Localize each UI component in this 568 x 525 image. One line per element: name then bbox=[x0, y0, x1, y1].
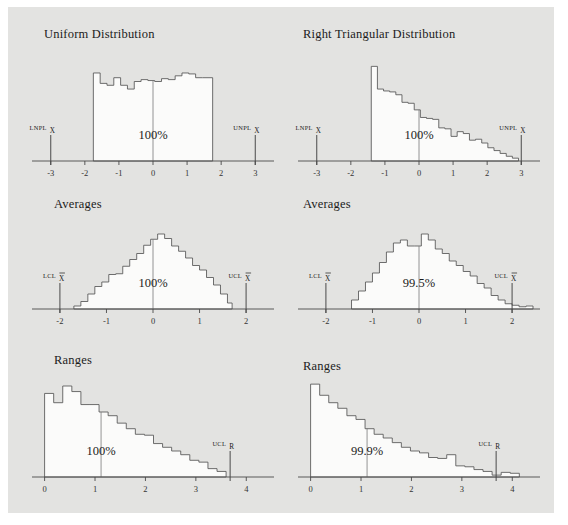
limit-label-lower-limit: LNPL bbox=[296, 124, 313, 131]
limit-label-lower-limit: LNPL bbox=[30, 124, 47, 131]
chart-title-averages-uniform: Averages bbox=[54, 197, 102, 212]
x-axis-tick-label: 0 bbox=[42, 484, 46, 494]
x-axis-tick-label: -1 bbox=[381, 168, 388, 178]
x-axis-tick-label: 2 bbox=[143, 484, 147, 494]
x-axis-tick-label: 2 bbox=[510, 316, 514, 326]
x-axis-tick-label: 4 bbox=[244, 484, 249, 494]
x-axis-tick-label: 0 bbox=[308, 484, 312, 494]
percent-label: 99.9% bbox=[351, 444, 383, 458]
limit-label-upper-control-limit: UCL bbox=[212, 440, 226, 447]
chart-title-uniform-distribution: Uniform Distribution bbox=[44, 27, 155, 42]
x-axis-tick-label: -1 bbox=[369, 316, 376, 326]
x-axis-tick-label: 3 bbox=[519, 168, 523, 178]
plot-area-uniform-distribution: 100%-3-2-10123LNPLXUNPLX bbox=[22, 25, 284, 187]
limit-subscript-lower-control-limit: X bbox=[59, 275, 65, 283]
percent-label: 100% bbox=[138, 128, 167, 142]
x-axis-tick-label: 1 bbox=[463, 316, 467, 326]
x-axis-tick-label: -1 bbox=[103, 316, 110, 326]
x-axis-tick-label: -3 bbox=[313, 168, 320, 178]
limit-label-upper-limit: UNPL bbox=[499, 124, 517, 131]
limit-label-lower-control-limit: LCL bbox=[309, 272, 322, 279]
x-axis-tick-label: -2 bbox=[322, 316, 329, 326]
histogram-outline bbox=[45, 386, 227, 477]
limit-subscript-upper-control-limit: X bbox=[245, 275, 251, 283]
figure-canvas: Uniform Distribution100%-3-2-10123LNPLXU… bbox=[8, 7, 554, 513]
x-axis-tick-label: 1 bbox=[359, 484, 363, 494]
x-axis-tick-label: 2 bbox=[409, 484, 413, 494]
chart-title-right-triangular-distribution: Right Triangular Distribution bbox=[303, 27, 455, 42]
x-axis-tick-label: 3 bbox=[253, 168, 257, 178]
limit-subscript-upper-control-limit: X bbox=[511, 275, 517, 283]
limit-label-lower-control-limit: LCL bbox=[43, 272, 56, 279]
x-axis-tick-label: 0 bbox=[417, 168, 421, 178]
limit-subscript-lower-limit: X bbox=[50, 127, 56, 135]
chart-panel-ranges-uniform: Ranges100%01234UCLR bbox=[22, 343, 284, 503]
chart-title-ranges-triangular: Ranges bbox=[303, 359, 341, 374]
limit-subscript-upper-control-limit: R bbox=[495, 443, 500, 451]
limit-subscript-lower-control-limit: X bbox=[325, 275, 331, 283]
limit-label-upper-limit: UNPL bbox=[233, 124, 251, 131]
plot-area-averages-triangular: 99.5%-2-1012LCLXUCLX bbox=[288, 195, 550, 335]
x-axis-tick-label: 1 bbox=[197, 316, 201, 326]
limit-label-upper-control-limit: UCL bbox=[478, 440, 492, 447]
x-axis-tick-label: 1 bbox=[451, 168, 455, 178]
x-axis-tick-label: 0 bbox=[417, 316, 421, 326]
percent-label: 100% bbox=[86, 444, 115, 458]
x-axis-tick-label: -2 bbox=[56, 316, 63, 326]
limit-label-upper-control-limit: UCL bbox=[228, 272, 242, 279]
percent-label: 99.5% bbox=[403, 276, 435, 290]
histogram-outline bbox=[371, 66, 518, 161]
x-axis-tick-label: 2 bbox=[219, 168, 223, 178]
x-axis-tick-label: 1 bbox=[93, 484, 97, 494]
chart-title-ranges-uniform: Ranges bbox=[54, 353, 92, 368]
chart-title-averages-triangular: Averages bbox=[303, 197, 351, 212]
x-axis-tick-label: -2 bbox=[81, 168, 88, 178]
x-axis-tick-label: 2 bbox=[485, 168, 489, 178]
chart-panel-right-triangular-distribution: Right Triangular Distribution100%-3-2-10… bbox=[288, 25, 550, 187]
x-axis-tick-label: 4 bbox=[510, 484, 515, 494]
chart-panel-averages-uniform: Averages100%-2-1012LCLXUCLX bbox=[22, 195, 284, 335]
histogram-outline bbox=[311, 384, 520, 477]
percent-label: 100% bbox=[404, 128, 433, 142]
x-axis-tick-label: -2 bbox=[347, 168, 354, 178]
x-axis-tick-label: 0 bbox=[151, 316, 155, 326]
limit-subscript-upper-limit: X bbox=[520, 127, 526, 135]
limit-subscript-lower-limit: X bbox=[316, 127, 322, 135]
chart-panel-averages-triangular: Averages99.5%-2-1012LCLXUCLX bbox=[288, 195, 550, 335]
limit-label-upper-control-limit: UCL bbox=[494, 272, 508, 279]
x-axis-tick-label: 1 bbox=[185, 168, 189, 178]
chart-panel-ranges-triangular: Ranges99.9%01234UCLR bbox=[288, 343, 550, 503]
x-axis-tick-label: 3 bbox=[194, 484, 198, 494]
x-axis-tick-label: 3 bbox=[460, 484, 464, 494]
x-axis-tick-label: -3 bbox=[47, 168, 54, 178]
chart-panel-uniform-distribution: Uniform Distribution100%-3-2-10123LNPLXU… bbox=[22, 25, 284, 187]
plot-area-right-triangular-distribution: 100%-3-2-10123LNPLXUNPLX bbox=[288, 25, 550, 187]
limit-subscript-upper-control-limit: R bbox=[229, 443, 234, 451]
limit-subscript-upper-limit: X bbox=[254, 127, 260, 135]
x-axis-tick-label: 2 bbox=[244, 316, 248, 326]
x-axis-tick-label: -1 bbox=[115, 168, 122, 178]
percent-label: 100% bbox=[138, 276, 167, 290]
x-axis-tick-label: 0 bbox=[151, 168, 155, 178]
plot-area-averages-uniform: 100%-2-1012LCLXUCLX bbox=[22, 195, 284, 335]
